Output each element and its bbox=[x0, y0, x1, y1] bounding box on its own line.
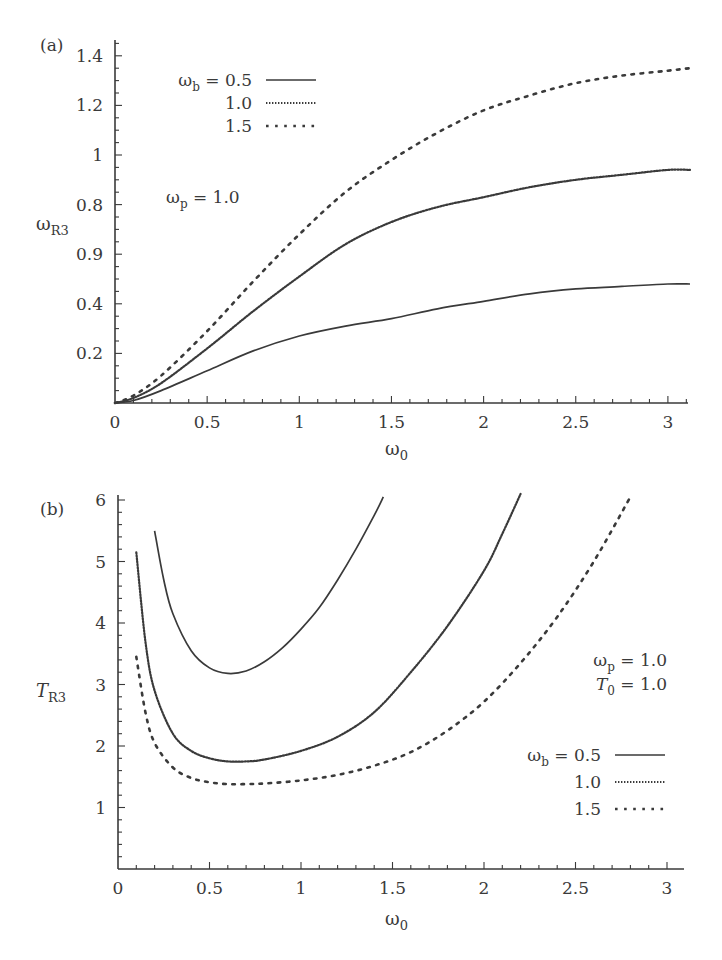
x-tick-label: 0 bbox=[110, 412, 121, 432]
panel-a-series bbox=[115, 68, 690, 403]
svg-text:ωb = 0.5: ωb = 0.5 bbox=[178, 70, 252, 94]
x-tick-label: 1 bbox=[294, 412, 305, 432]
panel-a-label: (a) bbox=[40, 35, 63, 55]
x-tick-label: 1.5 bbox=[378, 412, 405, 432]
svg-text:T0 = 1.0: T0 = 1.0 bbox=[596, 674, 667, 698]
panel-b-legend: ωb = 0.51.01.5 bbox=[527, 745, 665, 819]
x-tick-label: 2 bbox=[479, 878, 490, 898]
panel-b-annotation: ωp = 1.0T0 = 1.0 bbox=[593, 650, 667, 698]
y-tick-label: 0.8 bbox=[76, 195, 103, 215]
y-tick-label: 1 bbox=[92, 145, 103, 165]
y-tick-label: 3 bbox=[95, 675, 106, 695]
y-tick-label: 0.2 bbox=[76, 343, 103, 363]
y-tick-label: 2 bbox=[95, 736, 106, 756]
panel-b-x-axis-title: ω0 bbox=[385, 908, 408, 933]
svg-text:1.0: 1.0 bbox=[574, 772, 601, 792]
x-tick-label: 0.5 bbox=[194, 412, 221, 432]
series-line-dashed bbox=[136, 497, 630, 784]
panel-a-y-axis-title: ωR3 bbox=[36, 213, 69, 238]
panel-a-annotation: ωp = 1.0 bbox=[166, 187, 240, 211]
x-tick-label: 0.5 bbox=[196, 878, 223, 898]
panel-a-axes bbox=[115, 40, 688, 403]
x-tick-label: 2.5 bbox=[562, 878, 589, 898]
x-tick-label: 0 bbox=[113, 878, 124, 898]
y-tick-label: 5 bbox=[95, 552, 106, 572]
svg-text:1.5: 1.5 bbox=[574, 799, 601, 819]
series-line-solid bbox=[155, 497, 384, 674]
svg-text:ωp = 1.0: ωp = 1.0 bbox=[166, 187, 240, 211]
x-tick-label: 2.5 bbox=[562, 412, 589, 432]
series-line-solid bbox=[115, 284, 690, 403]
y-tick-label: 1 bbox=[95, 798, 106, 818]
y-tick-label: 1.2 bbox=[76, 95, 103, 115]
svg-text:ωp = 1.0: ωp = 1.0 bbox=[593, 650, 667, 674]
panel-b-label: (b) bbox=[40, 499, 64, 519]
panel-b-series bbox=[136, 494, 630, 784]
panel-b-plot: (b) 00.511.522.53123456 ωb = 0.51.01.5 ω… bbox=[36, 490, 684, 933]
panel-a-ticks: 00.511.522.530.20.40.90.811.21.4 bbox=[76, 43, 686, 432]
svg-text:1.0: 1.0 bbox=[225, 93, 252, 113]
panel-b-ticks: 00.511.522.53123456 bbox=[95, 490, 672, 898]
y-tick-label: 0.9 bbox=[76, 244, 103, 264]
x-tick-label: 1 bbox=[296, 878, 307, 898]
panel-a-x-axis-title: ω0 bbox=[385, 438, 408, 463]
svg-text:1.5: 1.5 bbox=[225, 116, 252, 136]
x-tick-label: 3 bbox=[662, 412, 673, 432]
svg-text:ωb = 0.5: ωb = 0.5 bbox=[527, 745, 601, 769]
y-tick-label: 0.4 bbox=[76, 294, 103, 314]
x-tick-label: 1.5 bbox=[379, 878, 406, 898]
series-line-dotted bbox=[136, 494, 520, 762]
x-tick-label: 3 bbox=[662, 878, 673, 898]
y-tick-label: 4 bbox=[95, 613, 106, 633]
y-tick-label: 1.4 bbox=[76, 46, 103, 66]
panel-a-legend: ωb = 0.51.01.5 bbox=[178, 70, 316, 136]
panel-a-plot: (a) 00.511.522.530.20.40.90.811.21.4 ωb … bbox=[36, 35, 690, 463]
x-tick-label: 2 bbox=[478, 412, 489, 432]
figure: (a) 00.511.522.530.20.40.90.811.21.4 ωb … bbox=[0, 0, 722, 960]
panel-b-y-axis-title: TR3 bbox=[36, 680, 66, 705]
y-tick-label: 6 bbox=[95, 490, 106, 510]
